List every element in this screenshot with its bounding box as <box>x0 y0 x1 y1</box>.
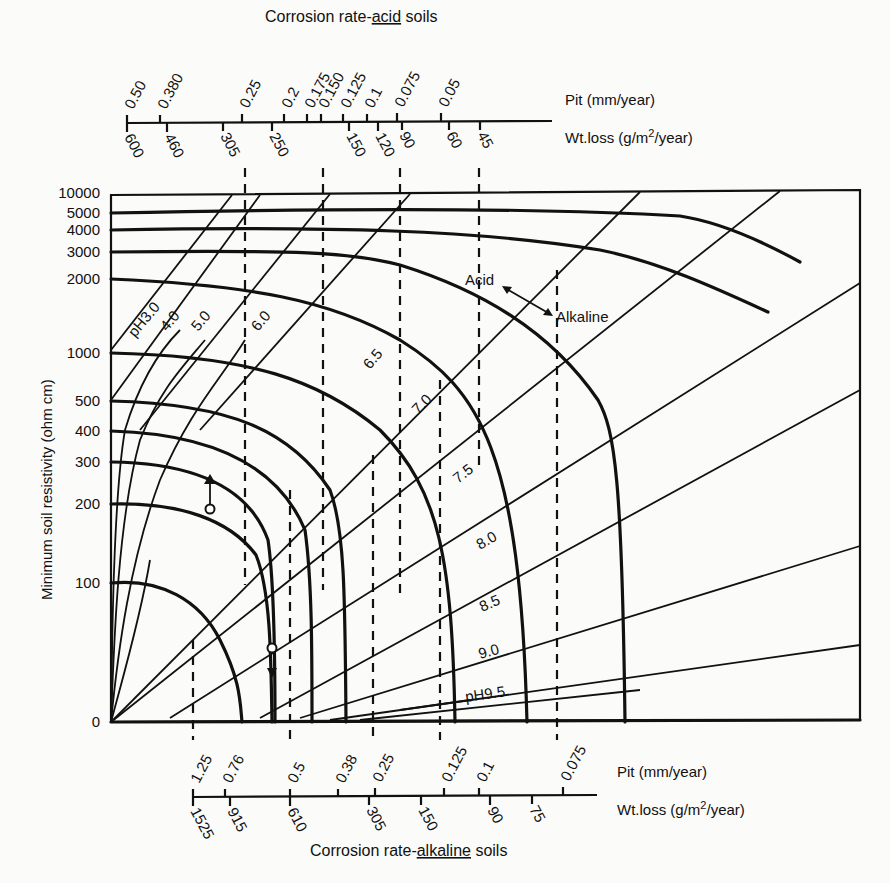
plot-area: pH3.0 4.0 5.0 6.0 6.5 7.0 7.5 8.0 8.5 9.… <box>111 168 860 740</box>
svg-text:0.25: 0.25 <box>236 77 265 111</box>
svg-text:300: 300 <box>75 453 100 470</box>
svg-text:305: 305 <box>363 803 390 833</box>
bottom-pit-tick-labels: 1.25 0.76 0.5 0.38 0.25 0.125 0.1 0.075 <box>187 742 590 785</box>
svg-text:5.0: 5.0 <box>187 307 213 334</box>
svg-text:90: 90 <box>396 128 419 151</box>
svg-text:1525: 1525 <box>187 804 218 841</box>
svg-text:250: 250 <box>266 129 293 159</box>
svg-text:10000: 10000 <box>58 184 100 201</box>
alkaline-label: Alkaline <box>556 308 609 325</box>
arrow-head-alkaline-icon <box>543 308 553 316</box>
svg-text:0.075: 0.075 <box>557 742 590 783</box>
svg-text:5000: 5000 <box>67 204 100 221</box>
svg-text:120: 120 <box>372 129 399 159</box>
nomogram-chart: Corrosion rate-acid soils 0.50 0.380 0.2… <box>0 0 890 883</box>
svg-text:60: 60 <box>443 128 466 151</box>
svg-text:0: 0 <box>92 713 100 730</box>
svg-text:0.50: 0.50 <box>121 78 150 112</box>
svg-text:0.2: 0.2 <box>278 84 303 110</box>
example-point-200 <box>206 505 215 514</box>
svg-text:0.1: 0.1 <box>473 758 498 784</box>
svg-text:9.0: 9.0 <box>476 640 501 662</box>
svg-text:75: 75 <box>526 802 549 825</box>
svg-text:6.0: 6.0 <box>247 307 273 334</box>
svg-text:6.5: 6.5 <box>359 345 385 372</box>
bottom-axis-title: Corrosion rate-alkaline soils <box>310 842 507 859</box>
svg-text:0.76: 0.76 <box>219 752 248 786</box>
svg-text:100: 100 <box>75 574 100 591</box>
bottom-axis-line <box>193 795 597 797</box>
y-axis: Minimum soil resistivity (ohm cm) 10000 … <box>38 184 100 730</box>
svg-text:0.380: 0.380 <box>154 70 187 111</box>
top-axis-line <box>127 121 552 123</box>
svg-text:pH9.5: pH9.5 <box>464 683 506 705</box>
svg-text:200: 200 <box>75 495 100 512</box>
svg-text:4000: 4000 <box>67 221 100 238</box>
svg-text:7.0: 7.0 <box>408 390 435 417</box>
acid-label: Acid <box>465 271 494 288</box>
svg-text:3000: 3000 <box>67 243 100 260</box>
svg-text:8.0: 8.0 <box>473 527 500 552</box>
svg-text:610: 610 <box>284 804 311 834</box>
svg-text:45: 45 <box>474 128 497 151</box>
svg-text:7.5: 7.5 <box>449 460 476 486</box>
top-wtloss-unit-label: Wt.loss (g/m2/year) <box>565 127 693 146</box>
svg-text:90: 90 <box>484 803 507 826</box>
arrow-head-acid-icon <box>502 286 512 294</box>
svg-text:0.05: 0.05 <box>435 76 464 110</box>
svg-text:1.25: 1.25 <box>187 752 216 786</box>
svg-text:150: 150 <box>415 803 442 833</box>
top-pit-unit-label: Pit (mm/year) <box>565 91 655 108</box>
svg-text:0.1: 0.1 <box>361 84 386 110</box>
top-pit-tick-labels: 0.50 0.380 0.25 0.2 0.175 0.150 0.125 0.… <box>121 68 464 111</box>
svg-text:600: 600 <box>121 130 148 160</box>
top-axis: Corrosion rate-acid soils 0.50 0.380 0.2… <box>121 8 693 161</box>
y-axis-title: Minimum soil resistivity (ohm cm) <box>38 379 55 600</box>
svg-text:2000: 2000 <box>67 270 100 287</box>
double-arrow-icon <box>505 288 550 314</box>
example-points <box>204 474 277 678</box>
svg-text:305: 305 <box>217 129 244 159</box>
ph-labels: pH3.0 4.0 5.0 6.0 6.5 7.0 7.5 8.0 8.5 9.… <box>124 298 506 705</box>
svg-text:150: 150 <box>343 129 370 159</box>
svg-text:0.25: 0.25 <box>369 751 398 785</box>
svg-text:1000: 1000 <box>67 344 100 361</box>
bottom-axis: 1.25 0.76 0.5 0.38 0.25 0.125 0.1 0.075 … <box>187 742 745 859</box>
svg-text:915: 915 <box>224 804 251 834</box>
svg-text:0.5: 0.5 <box>284 759 309 785</box>
svg-text:pH3.0: pH3.0 <box>124 298 163 340</box>
svg-text:400: 400 <box>75 422 100 439</box>
svg-text:8.5: 8.5 <box>477 591 503 615</box>
svg-text:500: 500 <box>75 392 100 409</box>
acid-alkaline-annotation: Acid Alkaline <box>465 271 609 325</box>
svg-text:0.38: 0.38 <box>332 752 361 786</box>
y-tick-labels: 10000 5000 4000 3000 2000 1000 500 400 3… <box>58 184 100 730</box>
svg-text:0.125: 0.125 <box>438 743 471 784</box>
svg-text:460: 460 <box>161 130 188 160</box>
top-axis-title: Corrosion rate-acid soils <box>265 8 438 25</box>
bottom-wtloss-unit-label: Wt.loss (g/m2/year) <box>617 799 745 818</box>
bottom-wt-tick-labels: 1525 915 610 305 150 90 75 <box>187 802 549 841</box>
bottom-pit-unit-label: Pit (mm/year) <box>617 763 707 780</box>
top-wt-tick-labels: 600 460 305 250 150 120 90 60 45 <box>121 128 497 160</box>
svg-text:0.075: 0.075 <box>391 68 424 109</box>
example-point-100 <box>268 644 277 653</box>
